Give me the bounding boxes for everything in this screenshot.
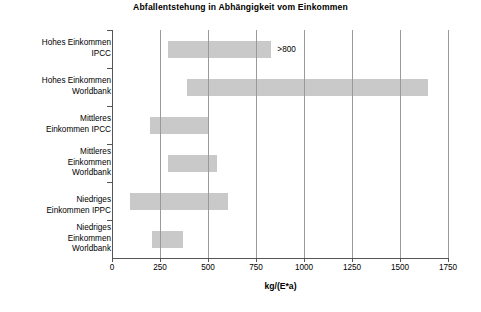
x-axis-tick-1750 — [448, 258, 449, 262]
x-axis-tick-label-0: 0 — [92, 263, 132, 272]
chart-title: Abfallentstehung in Abhängigkeit vom Ein… — [0, 2, 481, 12]
x-axis-tick-250 — [160, 258, 161, 262]
x-axis-tick-label-750: 750 — [236, 263, 276, 272]
y-axis-label-4: Niedriges Einkommen IPPC — [1, 195, 111, 216]
x-axis-tick-750 — [256, 258, 257, 262]
plot-area — [112, 30, 448, 258]
y-axis-label-1: Hohes Einkommen Worldbank — [1, 76, 111, 97]
y-axis-label-5: Niedriges Einkommen Worldbank — [1, 223, 111, 255]
y-axis-label-3: Mittleres Einkommen Worldbank — [1, 147, 111, 179]
bar-annotation-0: >800 — [277, 45, 295, 54]
y-axis-label-0: Hohes Einkommen IPCC — [1, 38, 111, 59]
x-axis-tick-label-1500: 1500 — [380, 263, 420, 272]
x-axis-line — [112, 258, 449, 259]
bars-layer — [112, 30, 448, 258]
x-axis-tick-label-250: 250 — [140, 263, 180, 272]
x-axis-tick-500 — [208, 258, 209, 262]
x-axis-tick-1500 — [400, 258, 401, 262]
gridline-1750 — [448, 30, 449, 258]
bar-4 — [130, 193, 228, 210]
x-axis-title: kg/(E*a) — [112, 281, 449, 291]
bar-2 — [150, 117, 208, 134]
x-axis-tick-1250 — [352, 258, 353, 262]
x-axis-tick-1000 — [304, 258, 305, 262]
bar-5 — [152, 231, 183, 248]
x-axis-tick-label-500: 500 — [188, 263, 228, 272]
bar-3 — [168, 155, 217, 172]
x-axis-tick-label-1250: 1250 — [332, 263, 372, 272]
chart-container: Abfallentstehung in Abhängigkeit vom Ein… — [0, 0, 481, 312]
x-axis-tick-label-1750: 1750 — [428, 263, 468, 272]
x-axis-tick-0 — [112, 258, 113, 262]
bar-1 — [187, 79, 428, 96]
x-axis-tick-label-1000: 1000 — [284, 263, 324, 272]
bar-0 — [168, 41, 272, 58]
y-axis-label-2: Mittleres Einkommen IPCC — [1, 114, 111, 135]
